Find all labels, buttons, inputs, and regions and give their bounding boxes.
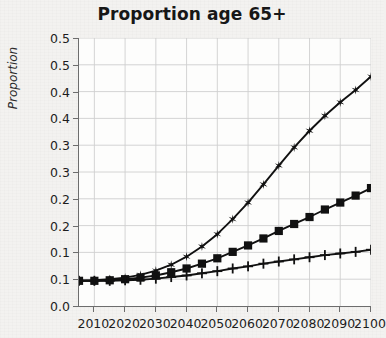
x-tick-mark bbox=[93, 307, 94, 312]
data-point bbox=[228, 263, 238, 273]
data-point bbox=[351, 247, 361, 257]
data-point bbox=[183, 252, 191, 261]
x-tick-mark bbox=[278, 307, 279, 312]
data-point bbox=[320, 250, 330, 260]
data-point bbox=[335, 248, 345, 258]
y-tick-label: 0.4 bbox=[24, 84, 70, 99]
data-point bbox=[212, 266, 222, 276]
x-tick-mark bbox=[309, 307, 310, 312]
data-point bbox=[213, 254, 221, 262]
x-tick-label: 2070 bbox=[262, 316, 294, 331]
x-tick-label: 2080 bbox=[293, 316, 325, 331]
x-tick-label: 2020 bbox=[108, 316, 140, 331]
y-tick-label: 0.2 bbox=[24, 191, 70, 206]
x-tick-label: 2010 bbox=[77, 316, 109, 331]
y-tick-label: 0.0 bbox=[24, 299, 70, 314]
data-point bbox=[367, 184, 371, 192]
chart-title: Proportion age 65+ bbox=[0, 4, 384, 24]
x-tick-label: 2100 bbox=[354, 316, 386, 331]
series-low-scenario bbox=[79, 245, 371, 286]
y-axis-label: Proportion bbox=[6, 18, 20, 138]
y-tick-label: 0.1 bbox=[24, 272, 70, 287]
data-point bbox=[275, 227, 283, 235]
x-tick-label: 2030 bbox=[139, 316, 171, 331]
y-tick-label: 0.3 bbox=[24, 138, 70, 153]
data-point bbox=[305, 252, 315, 262]
x-tick-label: 2060 bbox=[231, 316, 263, 331]
x-tick-mark bbox=[339, 307, 340, 312]
x-tick-mark bbox=[186, 307, 187, 312]
x-tick-mark bbox=[124, 307, 125, 312]
x-tick-mark bbox=[216, 307, 217, 312]
x-tick-label: 2050 bbox=[200, 316, 232, 331]
data-point bbox=[336, 198, 344, 206]
x-tick-label: 2090 bbox=[323, 316, 355, 331]
plot-area bbox=[78, 38, 371, 307]
x-tick-mark bbox=[155, 307, 156, 312]
y-tick-label: 0.1 bbox=[24, 245, 70, 260]
data-point bbox=[305, 213, 313, 221]
data-point bbox=[167, 260, 175, 269]
data-point bbox=[289, 254, 299, 264]
data-point bbox=[274, 257, 284, 267]
y-tick-label: 0.5 bbox=[24, 57, 70, 72]
x-tick-label: 2040 bbox=[170, 316, 202, 331]
y-tick-label: 0.5 bbox=[24, 31, 70, 46]
y-tick-label: 0.4 bbox=[24, 111, 70, 126]
y-tick-label: 0.2 bbox=[24, 218, 70, 233]
data-point bbox=[352, 191, 360, 199]
data-point bbox=[258, 259, 268, 269]
x-tick-mark bbox=[247, 307, 248, 312]
data-point bbox=[366, 245, 371, 255]
data-point bbox=[197, 268, 207, 278]
data-point bbox=[290, 220, 298, 228]
x-tick-mark bbox=[370, 307, 371, 312]
y-tick-label: 0.3 bbox=[24, 165, 70, 180]
data-point bbox=[321, 205, 329, 213]
data-point bbox=[229, 248, 237, 256]
data-point bbox=[259, 234, 267, 242]
data-point bbox=[243, 261, 253, 271]
data-series-layer bbox=[79, 38, 371, 306]
series-high-scenario bbox=[79, 72, 371, 285]
data-point bbox=[244, 241, 252, 249]
data-point bbox=[198, 260, 206, 268]
